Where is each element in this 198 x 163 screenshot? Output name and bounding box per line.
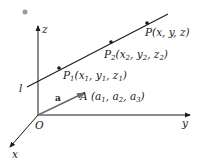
line-l-label: l xyxy=(19,83,22,94)
vector-a xyxy=(38,93,84,115)
decorative-dot xyxy=(23,10,28,15)
point-p1-dot xyxy=(57,66,61,70)
origin-label: O xyxy=(35,120,44,131)
x-axis-label: x xyxy=(12,149,18,160)
point-a-label: A (a1, a2, a3) xyxy=(80,91,145,104)
point-p1-label: P1(x1, y1, z1) xyxy=(63,70,127,83)
point-p2-label: P2(x2, y2, z2) xyxy=(104,49,168,62)
line-in-space-diagram: z y x O l P1(x1, y1, z1) P2(x2, y2, z2) … xyxy=(0,0,198,163)
y-axis-label: y xyxy=(182,118,188,129)
point-p-dot xyxy=(145,21,149,25)
x-axis xyxy=(10,115,38,147)
point-p2-dot xyxy=(109,40,113,44)
vector-a-label: a xyxy=(55,94,61,103)
z-axis-label: z xyxy=(42,24,48,35)
point-p-label: P(x, y, z) xyxy=(145,27,190,38)
